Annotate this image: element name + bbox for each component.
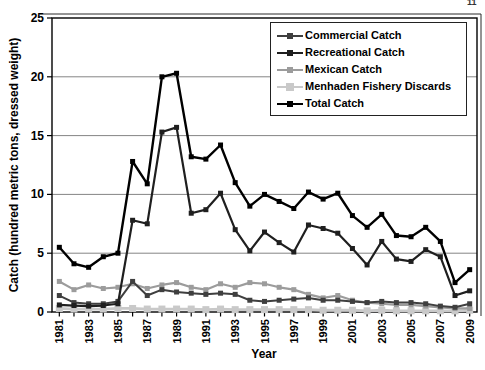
series-marker-commercial-catch-1993: [233, 292, 238, 297]
series-marker-recreational-catch-1984: [101, 303, 106, 308]
series-marker-recreational-catch-1986: [130, 218, 135, 223]
series-marker-mexican-catch-1995: [262, 281, 267, 286]
series-marker-commercial-catch-1997: [291, 297, 296, 302]
series-marker-menhaden-fishery-discards-1987: [144, 306, 151, 313]
x-tick-label-1983: 1983: [83, 319, 95, 343]
series-marker-menhaden-fishery-discards-1993: [232, 306, 239, 313]
series-marker-mexican-catch-1996: [277, 285, 282, 290]
series-marker-commercial-catch-1989: [174, 290, 179, 295]
series-marker-recreational-catch-1994: [247, 248, 252, 253]
x-tick-label-1985: 1985: [112, 319, 124, 343]
series-marker-menhaden-fishery-discards-1989: [173, 306, 180, 313]
x-tick-label-1989: 1989: [171, 319, 183, 343]
series-marker-recreational-catch-1982: [71, 303, 76, 308]
series-marker-commercial-catch-2003: [379, 299, 384, 304]
series-marker-commercial-catch-2000: [335, 298, 340, 303]
x-tick-label-1993: 1993: [229, 319, 241, 343]
series-marker-commercial-catch-1987: [145, 293, 150, 298]
series-marker-commercial-catch-2002: [365, 300, 370, 305]
series-marker-total-catch-1992: [218, 143, 223, 148]
series-marker-recreational-catch-2005: [409, 259, 414, 264]
series-marker-total-catch-1990: [189, 154, 194, 159]
series-marker-commercial-catch-2008: [453, 305, 458, 310]
series-marker-total-catch-1994: [247, 204, 252, 209]
series-marker-mexican-catch-2000: [335, 293, 340, 298]
series-marker-total-catch-2004: [394, 233, 399, 238]
y-tick-label-10: 10: [31, 187, 45, 201]
series-marker-total-catch-1984: [101, 254, 106, 259]
series-marker-commercial-catch-1994: [247, 298, 252, 303]
legend-item-total-catch: Total Catch: [277, 95, 461, 112]
series-marker-mexican-catch-1997: [291, 287, 296, 292]
series-marker-total-catch-1993: [233, 180, 238, 185]
x-tick-label-2009: 2009: [464, 319, 476, 343]
series-marker-recreational-catch-1999: [321, 226, 326, 231]
series-marker-mexican-catch-1987: [145, 286, 150, 291]
series-marker-menhaden-fishery-discards-1986: [129, 305, 136, 312]
series-marker-mexican-catch-1982: [71, 287, 76, 292]
series-marker-commercial-catch-2009: [467, 301, 472, 306]
series-marker-mexican-catch-1989: [174, 280, 179, 285]
series-marker-menhaden-fishery-discards-1995: [261, 306, 268, 313]
series-marker-menhaden-fishery-discards-1988: [158, 306, 165, 313]
legend-label-recreational-catch: Recreational Catch: [305, 44, 405, 61]
series-marker-mexican-catch-1983: [86, 282, 91, 287]
series-marker-recreational-catch-1993: [233, 227, 238, 232]
series-marker-recreational-catch-1989: [174, 125, 179, 130]
series-marker-mexican-catch-1990: [189, 285, 194, 290]
series-marker-recreational-catch-1983: [86, 304, 91, 309]
series-marker-menhaden-fishery-discards-2005: [408, 307, 415, 314]
series-marker-recreational-catch-1981: [57, 302, 62, 307]
series-marker-menhaden-fishery-discards-2002: [364, 307, 371, 314]
series-marker-total-catch-1996: [277, 199, 282, 204]
series-marker-recreational-catch-2007: [438, 254, 443, 259]
x-tick-label-2003: 2003: [376, 319, 388, 343]
series-marker-commercial-catch-1999: [321, 298, 326, 303]
legend-marker-commercial-catch: [277, 31, 303, 40]
y-tick-label-15: 15: [31, 129, 45, 143]
legend-item-commercial-catch: Commercial Catch: [277, 27, 461, 44]
series-marker-total-catch-2007: [438, 239, 443, 244]
series-marker-total-catch-1989: [174, 71, 179, 76]
series-marker-recreational-catch-1988: [159, 130, 164, 135]
x-tick-label-1987: 1987: [141, 319, 153, 343]
legend-marker-recreational-catch: [277, 48, 303, 57]
series-marker-commercial-catch-1991: [203, 292, 208, 297]
y-axis-title: Catch (hundred metric tons, dressed weig…: [7, 38, 21, 293]
series-marker-total-catch-2002: [365, 225, 370, 230]
series-marker-commercial-catch-2006: [423, 301, 428, 306]
series-line-recreational-catch: [59, 127, 469, 306]
series-marker-mexican-catch-1988: [159, 282, 164, 287]
series-marker-recreational-catch-1996: [277, 240, 282, 245]
series-marker-menhaden-fishery-discards-1998: [305, 306, 312, 313]
series-marker-menhaden-fishery-discards-1991: [202, 306, 209, 313]
series-marker-recreational-catch-2008: [453, 293, 458, 298]
series-marker-menhaden-fishery-discards-2001: [349, 307, 356, 314]
x-tick-label-1991: 1991: [200, 319, 212, 343]
legend-marker-menhaden-fishery-discards: [277, 82, 303, 91]
series-marker-commercial-catch-1986: [130, 279, 135, 284]
y-tick-label-25: 25: [31, 11, 45, 25]
x-tick-label-2001: 2001: [346, 319, 358, 343]
series-marker-recreational-catch-1987: [145, 221, 150, 226]
x-tick-label-1997: 1997: [288, 319, 300, 343]
series-marker-menhaden-fishery-discards-1999: [320, 307, 327, 314]
series-marker-total-catch-1986: [130, 159, 135, 164]
series-marker-total-catch-2006: [423, 225, 428, 230]
series-marker-recreational-catch-1990: [189, 211, 194, 216]
series-marker-mexican-catch-2009: [467, 306, 472, 311]
series-marker-commercial-catch-1981: [57, 293, 62, 298]
legend-label-mexican-catch: Mexican Catch: [305, 61, 382, 78]
series-marker-total-catch-2003: [379, 212, 384, 217]
legend-item-mexican-catch: Mexican Catch: [277, 61, 461, 78]
series-marker-menhaden-fishery-discards-1997: [290, 306, 297, 313]
series-marker-commercial-catch-1996: [277, 298, 282, 303]
series-marker-mexican-catch-1984: [101, 286, 106, 291]
series-marker-commercial-catch-1992: [218, 291, 223, 296]
series-marker-total-catch-1991: [203, 157, 208, 162]
series-marker-mexican-catch-1993: [233, 285, 238, 290]
series-marker-recreational-catch-1998: [306, 222, 311, 227]
series-marker-total-catch-1985: [115, 251, 120, 256]
series-marker-menhaden-fishery-discards-2000: [334, 307, 341, 314]
legend-marker-mexican-catch: [277, 65, 303, 74]
